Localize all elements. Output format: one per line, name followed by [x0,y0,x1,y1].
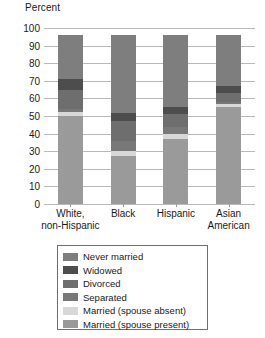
bar-black[interactable] [111,28,136,204]
legend-label: Married (spouse present) [83,319,189,330]
x-axis-tick [176,204,177,207]
bar-segment [111,141,136,152]
bar-white-non-hispanic[interactable] [58,28,83,204]
legend-item[interactable]: Divorced [63,277,207,290]
bar-segment [58,79,83,90]
y-axis-tick-label: 50 [16,111,40,122]
y-axis-tick-label: 30 [16,146,40,157]
y-axis-tick-label: 70 [16,75,40,86]
y-axis-tick-label: 60 [16,93,40,104]
legend-swatch [63,307,78,315]
legend-label: Divorced [83,278,121,289]
bar-segment [163,127,188,134]
x-axis-label-line: non-Hispanic [35,220,105,232]
legend-label: Married (spouse absent) [83,305,186,316]
bar-hispanic[interactable] [163,28,188,204]
bar-segment [58,116,83,204]
bar-segment [216,35,241,86]
x-axis-label-line: Asian [194,208,264,220]
legend-item[interactable]: Widowed [63,264,207,277]
y-axis-tick-labels: 0102030405060708090100 [14,28,40,204]
y-axis-tick-label: 40 [16,128,40,139]
legend: Never marriedWidowedDivorcedSeparatedMar… [57,245,208,330]
y-axis-tick-label: 10 [16,181,40,192]
chart-page: Percent 0102030405060708090100 Never mar… [0,0,265,338]
legend-item[interactable]: Married (spouse present) [63,318,207,331]
bar-segment [216,107,241,204]
bar-segment [111,35,136,112]
x-axis-tick [123,204,124,207]
bar-segment [216,86,241,93]
legend-swatch [63,280,78,288]
legend-label: Separated [83,292,127,303]
bar-segment [111,121,136,140]
legend-item[interactable]: Never married [63,250,207,263]
y-axis-tick-label: 100 [16,23,40,34]
bar-segment [163,139,188,204]
bar-segment [163,35,188,107]
legend-item[interactable]: Married (spouse absent) [63,304,207,317]
x-axis-tick [70,204,71,207]
legend-swatch [63,320,78,328]
y-axis-tick-label: 90 [16,40,40,51]
bar-asian-american[interactable] [216,28,241,204]
x-axis-label-line: American [194,220,264,232]
bar-segment [111,156,136,204]
bar-segment [163,107,188,114]
x-axis-category-label: AsianAmerican [194,208,264,231]
bar-segment [58,35,83,79]
y-axis-tick-label: 80 [16,58,40,69]
legend-label: Never married [83,251,143,262]
y-axis-tick-label: 20 [16,163,40,174]
legend-label: Widowed [83,265,122,276]
legend-item[interactable]: Separated [63,291,207,304]
bar-segment [58,90,83,109]
gridline [44,204,255,205]
bar-segment [163,114,188,126]
x-axis-tick [229,204,230,207]
bar-segment [111,113,136,122]
legend-swatch [63,266,78,274]
legend-swatch [63,253,78,261]
y-axis-title: Percent [25,2,60,13]
bar-segment [216,93,241,102]
plot-area [44,28,255,204]
legend-swatch [63,293,78,301]
